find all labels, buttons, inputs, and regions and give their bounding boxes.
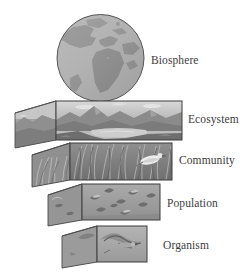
level-organism-box	[62, 226, 147, 270]
level-ecosystem-box	[15, 101, 182, 148]
label-population: Population	[167, 198, 218, 210]
level-population-box	[48, 184, 160, 228]
label-organism: Organism	[163, 240, 209, 252]
label-community: Community	[179, 155, 235, 167]
level-community-box	[32, 143, 172, 189]
level-biosphere-globe	[55, 12, 163, 106]
label-biosphere: Biosphere	[151, 55, 199, 67]
biological-organization-diagram	[0, 0, 249, 280]
diagram-canvas: Biosphere Ecosystem Community Population…	[0, 0, 249, 280]
label-ecosystem: Ecosystem	[188, 114, 239, 126]
